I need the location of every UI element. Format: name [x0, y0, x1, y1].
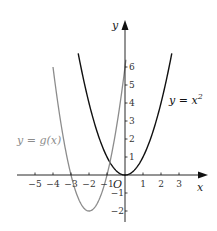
- x-tick-label: 3: [176, 179, 182, 189]
- x-tick-label: 2: [158, 179, 164, 189]
- graph-canvas: −5−4−3−2−1123−2−1123456 x y O y = x2 y =…: [0, 0, 217, 231]
- x-tick-label: −4: [46, 179, 60, 189]
- y-tick-label: 2: [129, 134, 135, 144]
- x-tick-label: −2: [82, 179, 95, 189]
- y-tick-label: 4: [129, 98, 135, 108]
- y-tick-label: −2: [111, 206, 124, 216]
- y-axis-arrow-icon: [122, 20, 129, 30]
- y-tick-label: 5: [129, 80, 135, 90]
- y-tick-label: 6: [129, 62, 135, 72]
- y-axis-label: y: [111, 19, 119, 32]
- y-tick-label: 3: [129, 116, 135, 126]
- x-tick-label: −5: [28, 179, 42, 189]
- origin-label: O: [113, 178, 122, 191]
- x-axis-label: x: [197, 181, 204, 194]
- x-squared-label: y = x2: [168, 92, 203, 107]
- g-of-x-label: y = g(x): [16, 134, 61, 147]
- x-tick-label: 1: [140, 179, 146, 189]
- x-tick-label: −3: [64, 179, 78, 189]
- x-axis-arrow-icon: [198, 172, 208, 179]
- y-tick-label: 1: [129, 152, 135, 162]
